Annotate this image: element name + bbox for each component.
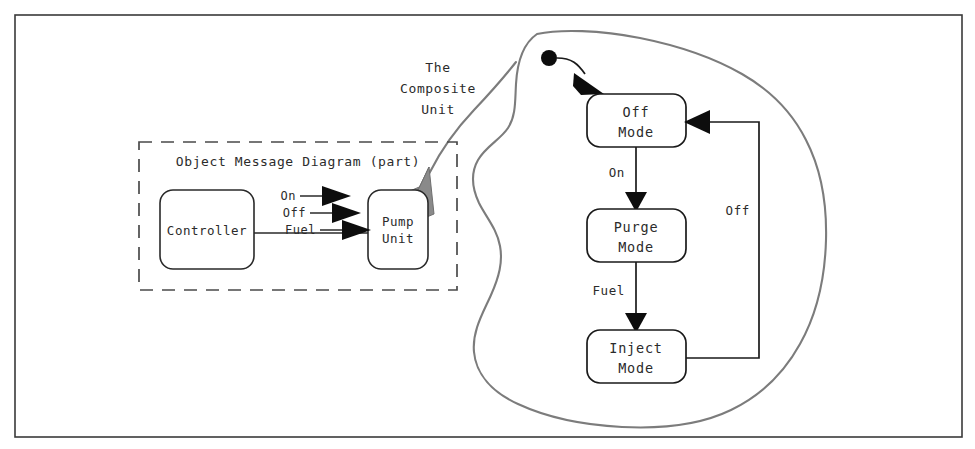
transition-label-off: Off [726, 203, 750, 218]
message-arrowhead-on [322, 186, 351, 206]
object-box-pump-unit-label-line-1: Pump [382, 214, 414, 229]
callout-label-line-2: Composite [400, 81, 476, 96]
state-box-off-mode-line-1: Off [623, 104, 650, 120]
state-box-purge-mode-line-2: Mode [618, 239, 654, 255]
object-box-pump-unit[interactable] [368, 190, 428, 269]
transition-line-off [686, 122, 759, 358]
transition-arrowhead-off [684, 110, 710, 134]
transition-line-initial [557, 58, 585, 74]
object-message-diagram-title: Object Message Diagram (part) [176, 154, 420, 169]
message-label-fuel: Fuel [285, 223, 316, 237]
outer-frame [15, 15, 962, 437]
state-box-inject-mode-line-1: Inject [609, 340, 663, 356]
transition-label-on: On [609, 165, 625, 180]
object-box-controller-label: Controller [167, 223, 247, 238]
message-label-on: On [281, 189, 296, 203]
transition-label-fuel: Fuel [592, 283, 625, 298]
message-label-off: Off [283, 206, 306, 220]
diagram-svg: The Composite Unit Object Message Diagra… [0, 0, 975, 449]
state-box-off-mode-line-2: Mode [618, 124, 654, 140]
callout-label-line-3: Unit [421, 102, 455, 117]
callout-label-line-1: The [425, 60, 450, 75]
initial-state-dot [541, 50, 557, 66]
message-arrowhead-fuel [342, 220, 371, 240]
state-box-purge-mode-line-1: Purge [614, 219, 659, 235]
message-arrowhead-off [332, 203, 361, 223]
state-box-inject-mode-line-2: Mode [618, 360, 654, 376]
object-box-pump-unit-label-line-2: Unit [382, 231, 414, 246]
diagram-canvas: The Composite Unit Object Message Diagra… [0, 0, 975, 449]
transition-arrowhead-initial [573, 73, 604, 95]
